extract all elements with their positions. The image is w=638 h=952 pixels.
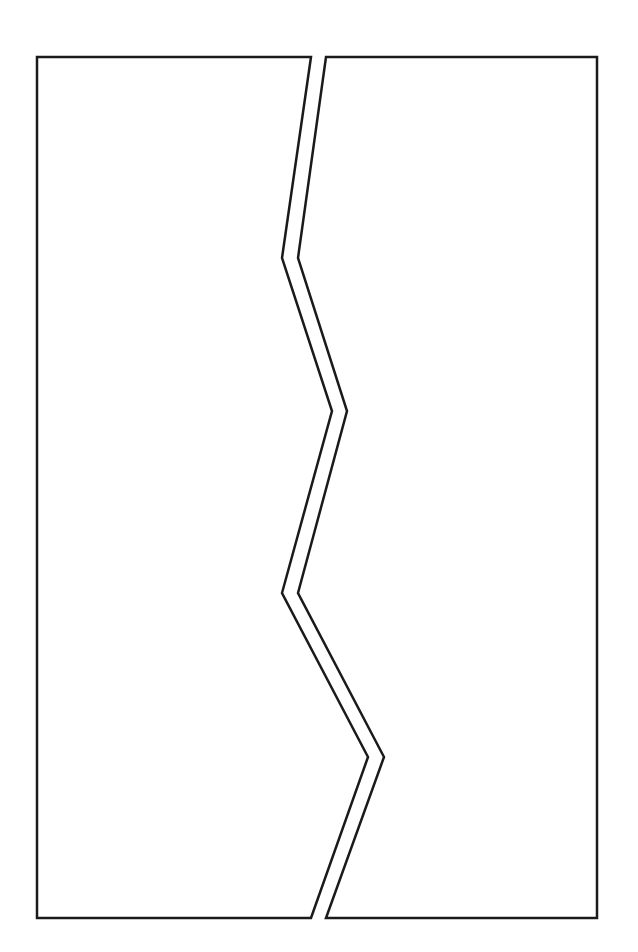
diagram-canvas — [0, 0, 638, 952]
torn-rectangle-diagram — [0, 0, 638, 952]
